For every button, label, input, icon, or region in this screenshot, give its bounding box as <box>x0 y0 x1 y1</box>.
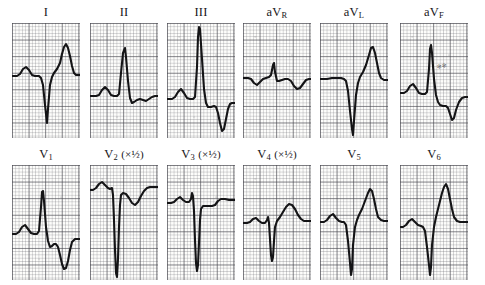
lead-label-main: V <box>347 147 356 161</box>
lead-label-main: aV <box>344 5 359 19</box>
ecg-strip-v5 <box>320 165 388 280</box>
lead-panel-ii: II <box>90 2 158 142</box>
lead-label-main: III <box>194 5 207 19</box>
lead-label-subscript: 5 <box>356 152 360 162</box>
lead-label-main: V <box>427 147 436 161</box>
ecg-waveform-avl <box>320 23 388 138</box>
lead-label-subscript: 1 <box>48 152 52 162</box>
ecg-waveform-v3 <box>167 165 235 280</box>
lead-label-main: aV <box>424 5 439 19</box>
lead-panel-v1: V1 <box>12 144 80 284</box>
lead-label-main: aV <box>267 5 282 19</box>
ecg-waveform-i <box>12 23 80 138</box>
lead-label-subscript: 4 <box>266 152 270 162</box>
ecg-strip-avr <box>243 23 311 138</box>
lead-panel-avf: aVF✻✻ <box>400 2 468 142</box>
lead-panel-v6: V6 <box>400 144 468 284</box>
lead-panel-avr: aVR <box>243 2 311 142</box>
lead-label-subscript: F <box>439 10 444 20</box>
ecg-waveform-avr <box>243 23 311 138</box>
lead-label-v2: V2 (×½) <box>90 144 158 164</box>
ecg-strip-v4 <box>243 165 311 280</box>
ecg-strip-v3 <box>167 165 235 280</box>
ecg-strip-ii <box>90 23 158 138</box>
lead-label-main: II <box>120 5 129 19</box>
lead-label-scale-suffix: (×½) <box>198 148 221 160</box>
ecg-waveform-ii <box>90 23 158 138</box>
lead-panel-v4: V4 (×½) <box>243 144 311 284</box>
ecg-strip-v2 <box>90 165 158 280</box>
ecg-waveform-v5 <box>320 165 388 280</box>
lead-panel-v2: V2 (×½) <box>90 144 158 284</box>
lead-label-v5: V5 <box>320 144 388 164</box>
lead-label-avr: aVR <box>243 2 311 22</box>
ecg-waveform-v1 <box>12 165 80 280</box>
lead-label-v6: V6 <box>400 144 468 164</box>
ecg-strip-i <box>12 23 80 138</box>
lead-label-scale-suffix: (×½) <box>274 148 297 160</box>
lead-panel-v3: V3 (×½) <box>167 144 235 284</box>
lead-label-v4: V4 (×½) <box>243 144 311 164</box>
lead-label-main: I <box>44 5 48 19</box>
lead-label-subscript: L <box>359 10 364 20</box>
lead-label-ii: II <box>90 2 158 22</box>
ecg-row-precordial-leads: V1V2 (×½)V3 (×½)V4 (×½)V5V6 <box>0 144 485 285</box>
ecg-row-limb-leads: IIIIIIaVRaVLaVF✻✻ <box>0 2 485 144</box>
lead-label-v3: V3 (×½) <box>167 144 235 164</box>
lead-label-subscript: R <box>282 10 288 20</box>
lead-label-scale-suffix: (×½) <box>121 148 144 160</box>
ecg-strip-avf: ✻✻ <box>400 23 468 138</box>
lead-label-i: I <box>12 2 80 22</box>
ecg-strip-avl <box>320 23 388 138</box>
ecg-strip-v6 <box>400 165 468 280</box>
lead-panel-avl: aVL <box>320 2 388 142</box>
lead-label-avf: aVF <box>400 2 468 22</box>
ecg-waveform-v4 <box>243 165 311 280</box>
lead-panel-i: I <box>12 2 80 142</box>
ecg-waveform-iii <box>167 23 235 138</box>
ecg-waveform-v6 <box>400 165 468 280</box>
ecg-strip-iii <box>167 23 235 138</box>
lead-label-subscript: 6 <box>436 152 440 162</box>
ecg-waveform-avf <box>400 23 468 138</box>
lead-label-subscript: 3 <box>190 152 194 162</box>
lead-panel-iii: III <box>167 2 235 142</box>
lead-label-subscript: 2 <box>113 152 117 162</box>
lead-label-avl: aVL <box>320 2 388 22</box>
ecg-waveform-v2 <box>90 165 158 280</box>
lead-label-iii: III <box>167 2 235 22</box>
lead-panel-v5: V5 <box>320 144 388 284</box>
ecg-strip-v1 <box>12 165 80 280</box>
lead-label-v1: V1 <box>12 144 80 164</box>
ecg-figure: IIIIIIaVRaVLaVF✻✻ V1V2 (×½)V3 (×½)V4 (×½… <box>0 0 485 285</box>
lead-label-main: V <box>39 147 48 161</box>
